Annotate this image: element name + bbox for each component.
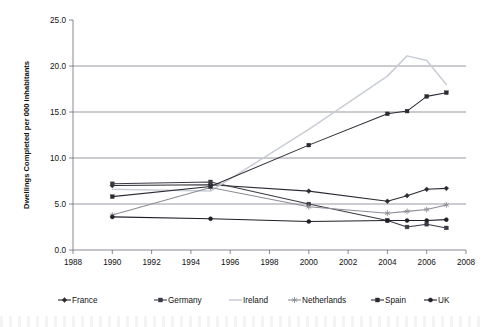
y-tick-label: 10.0 xyxy=(50,154,66,163)
legend-label: Germany xyxy=(168,296,203,305)
data-point-marker xyxy=(425,222,429,226)
y-axis-label: Dwellings Completed per 000 inhabitants xyxy=(22,61,31,209)
data-point-marker xyxy=(110,215,114,219)
y-tick-label: 20.0 xyxy=(50,62,66,71)
data-point-marker xyxy=(110,182,114,186)
legend-label: Spain xyxy=(385,296,406,305)
legend-label: UK xyxy=(438,296,450,305)
data-point-marker xyxy=(425,94,429,98)
data-point-marker xyxy=(385,219,389,223)
legend-label: Netherlands xyxy=(302,296,346,305)
data-point-marker xyxy=(159,298,163,302)
x-tick-label: 1988 xyxy=(64,258,83,267)
y-axis-title: Dwellings Completed per 000 inhabitants xyxy=(22,61,31,209)
legend-label: France xyxy=(72,296,98,305)
y-tick-label: 0.0 xyxy=(55,246,67,255)
x-tick-label: 1994 xyxy=(182,258,201,267)
y-tick-label: 5.0 xyxy=(55,200,67,209)
x-tick-label: 1996 xyxy=(221,258,240,267)
data-point-marker xyxy=(405,219,409,223)
data-point-marker xyxy=(428,298,432,302)
data-point-marker xyxy=(209,180,213,184)
data-point-marker xyxy=(307,143,311,147)
data-point-marker xyxy=(386,112,390,116)
data-point-marker xyxy=(209,217,213,221)
x-tick-label: 2006 xyxy=(418,258,437,267)
data-point-marker xyxy=(376,298,380,302)
data-point-marker xyxy=(405,109,409,113)
plot-background xyxy=(0,0,483,327)
data-point-marker xyxy=(307,219,311,223)
data-point-marker xyxy=(444,91,448,95)
x-tick-label: 1992 xyxy=(142,258,161,267)
data-point-marker xyxy=(425,219,429,223)
data-point-marker xyxy=(444,226,448,230)
legend-label: Ireland xyxy=(243,296,268,305)
data-point-marker xyxy=(209,185,213,189)
line-chart: 0.05.010.015.020.025.0 19881990199219941… xyxy=(0,0,483,327)
data-point-marker xyxy=(110,195,114,199)
data-point-marker xyxy=(444,218,448,222)
x-tick-label: 2004 xyxy=(378,258,397,267)
chart-container: 0.05.010.015.020.025.0 19881990199219941… xyxy=(0,0,483,327)
x-tick-label: 1990 xyxy=(103,258,122,267)
x-tick-label: 2000 xyxy=(300,258,319,267)
data-point-marker xyxy=(405,225,409,229)
y-tick-label: 25.0 xyxy=(50,16,66,25)
x-tick-label: 1998 xyxy=(260,258,279,267)
x-tick-label: 2002 xyxy=(339,258,358,267)
x-tick-label: 2008 xyxy=(457,258,476,267)
y-tick-label: 15.0 xyxy=(50,108,66,117)
